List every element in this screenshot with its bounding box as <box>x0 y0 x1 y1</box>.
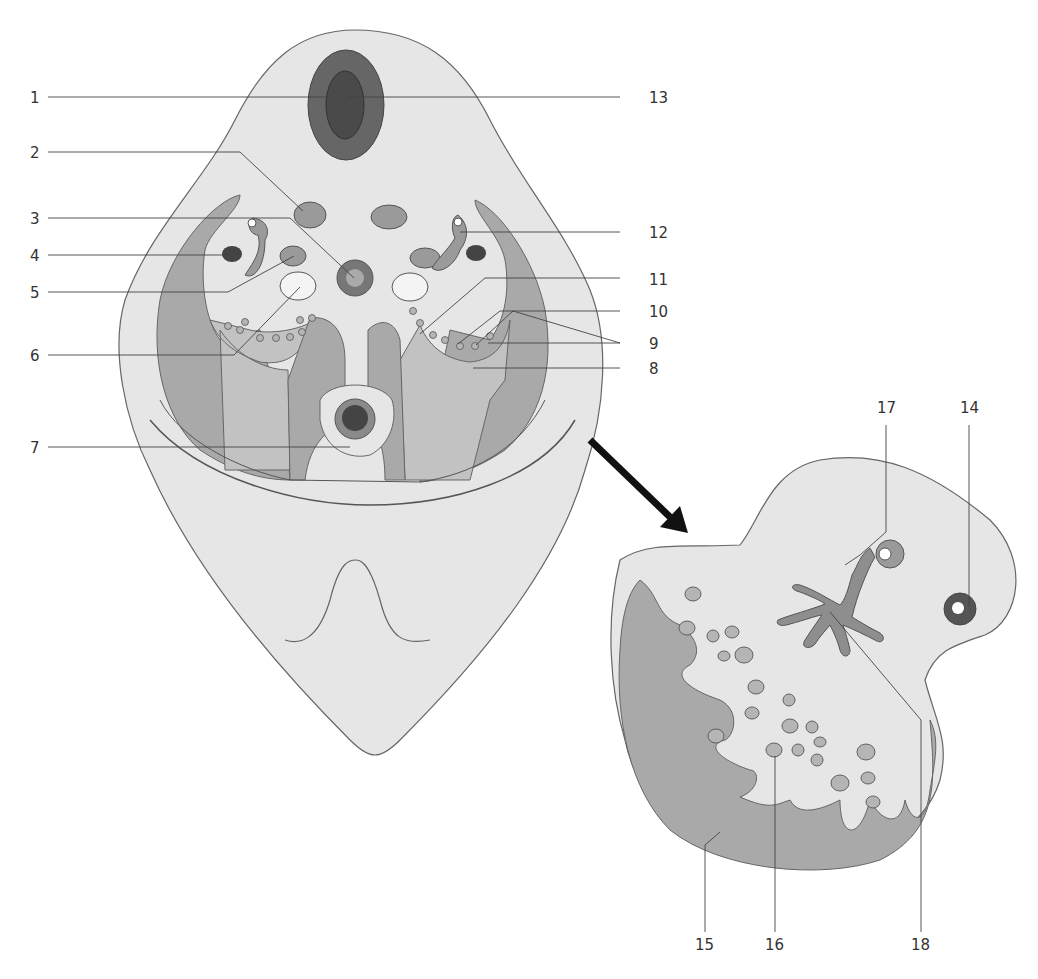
label-16: 16 <box>765 936 784 954</box>
label-1: 1 <box>30 89 40 107</box>
structure-7-inner <box>342 405 368 431</box>
label-15: 15 <box>695 936 714 954</box>
label-10: 10 <box>649 303 668 321</box>
structure-17 <box>879 548 891 560</box>
main-cross-section <box>119 30 603 755</box>
label-4: 4 <box>30 247 40 265</box>
label-18: 18 <box>911 936 930 954</box>
label-8: 8 <box>649 360 659 378</box>
label-9: 9 <box>649 335 659 353</box>
label-11: 11 <box>649 271 668 289</box>
structure-12-lumen <box>454 218 462 226</box>
structure-12-left-lumen <box>248 219 256 227</box>
magnification-arrow <box>590 440 688 533</box>
structure-14-lumen <box>952 602 964 614</box>
structure-5 <box>280 246 306 266</box>
label-14: 14 <box>960 399 979 417</box>
anatomy-diagram: 1 2 3 4 5 6 7 8 9 10 11 12 13 14 15 16 1… <box>0 0 1038 979</box>
label-3: 3 <box>30 210 40 228</box>
white-oval-right <box>392 273 428 301</box>
label-12: 12 <box>649 224 668 242</box>
structure-2 <box>294 202 326 228</box>
label-2: 2 <box>30 144 40 162</box>
structure-4-mirror <box>466 245 486 261</box>
white-oval-left <box>280 272 316 300</box>
label-13: 13 <box>649 89 668 107</box>
label-17: 17 <box>877 399 896 417</box>
structure-1 <box>326 71 364 139</box>
label-6: 6 <box>30 347 40 365</box>
structure-2-mirror <box>371 205 407 229</box>
structure-3-inner <box>346 269 364 287</box>
label-7: 7 <box>30 439 40 457</box>
label-5: 5 <box>30 284 40 302</box>
structure-4 <box>222 246 242 262</box>
